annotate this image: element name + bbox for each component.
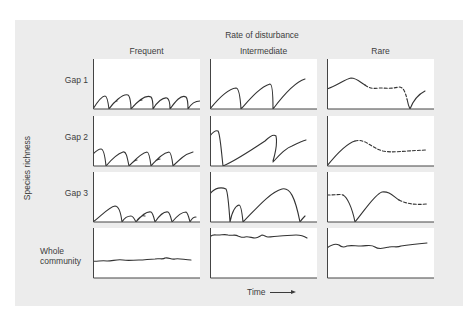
plot-intermediate-gap-2 — [210, 116, 317, 166]
plot-frequent-gap-2 — [93, 116, 200, 166]
plot-rare-gap-1 — [327, 59, 434, 109]
plot-rare-whole-community — [327, 228, 434, 278]
plot-frequent-whole-community — [91, 228, 200, 278]
plot-intermediate-gap-1 — [210, 59, 317, 109]
plot-frequent-gap-3 — [93, 172, 200, 222]
plot-intermediate-whole-community — [209, 228, 317, 278]
plot-grid — [0, 0, 476, 318]
plot-frequent-gap-1 — [93, 59, 200, 109]
plot-rare-gap-2 — [327, 116, 434, 166]
plot-intermediate-gap-3 — [210, 172, 317, 222]
plot-rare-gap-3 — [327, 172, 434, 222]
